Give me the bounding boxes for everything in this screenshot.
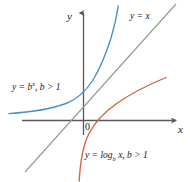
identity-line-label: y = x	[130, 12, 150, 22]
logarithm-curve-label: y = logb x, b > 1	[85, 151, 148, 162]
x-axis-label: x	[178, 124, 183, 135]
y-axis-label: y	[67, 11, 72, 22]
identity-label-text: y = x	[130, 11, 150, 21]
logarithm-curve	[79, 78, 166, 182]
logarithm-label-argument: x, b > 1	[116, 150, 148, 160]
exponential-label-lead: y = b	[12, 82, 32, 92]
exponential-curve-label: y = bx, b > 1	[12, 81, 60, 93]
graph-figure: y x 0 y = bx, b > 1 y = x y = logb x, b …	[0, 0, 190, 182]
origin-label: 0	[85, 122, 90, 132]
exponential-curve	[9, 6, 118, 114]
logarithm-label-lead: y = log	[85, 150, 113, 160]
exponential-label-condition: , b > 1	[35, 82, 60, 92]
